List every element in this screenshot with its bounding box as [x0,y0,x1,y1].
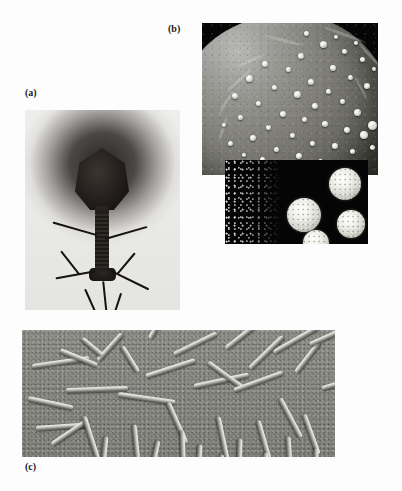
isolated-virion [303,230,329,244]
isolated-virion [337,210,365,238]
virus-rod [314,449,319,458]
panel-label-c: (c) [25,462,36,472]
figure-canvas: (a) (b) (c) [0,0,402,491]
sem-grain-overlay [202,23,378,175]
virus-rod [236,438,242,457]
panel-b-darkfield-virions [225,160,368,244]
phage-tail-sheath-icon [95,214,109,272]
isolated-virion [287,198,321,232]
panel-label-b: (b) [168,24,180,34]
panel-c-rod-shaped-viruses [22,330,335,457]
scan-artifact-body-text [48,47,218,61]
virus-rod [195,444,202,457]
panel-a-bacteriophage-micrograph [25,110,180,310]
debris-speckle-field [225,160,281,244]
panel-b-sem-budding-virions [202,23,378,175]
isolated-virion [329,168,361,200]
panel-label-a: (a) [25,88,37,98]
scan-artifact-header-text [90,0,400,10]
